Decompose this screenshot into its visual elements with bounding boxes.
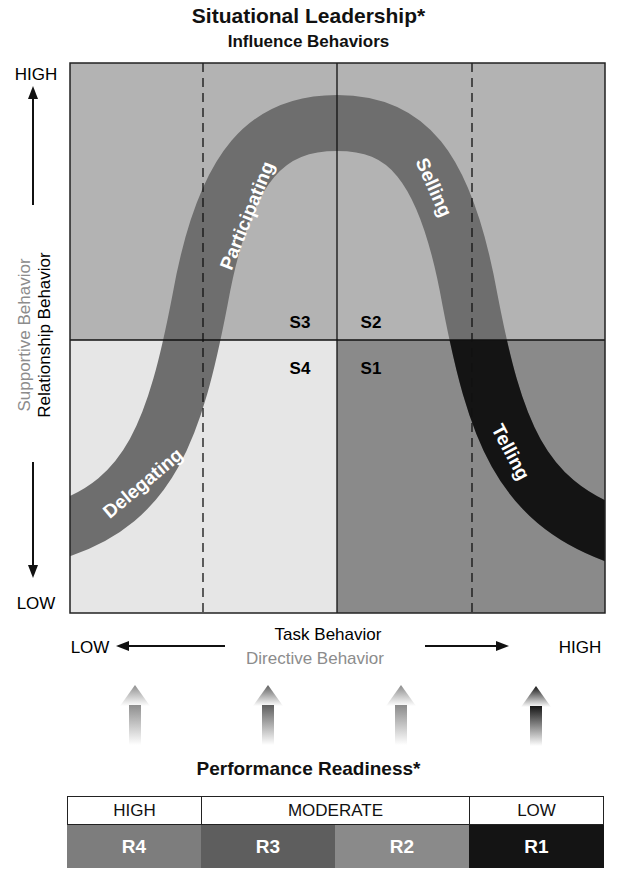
x-axis-label-primary: Task Behavior	[275, 625, 382, 644]
cell-r2: R2	[335, 825, 469, 868]
y-axis-high: HIGH	[15, 65, 58, 84]
quadrant-s2: S2	[361, 313, 382, 332]
y-arrow-down-icon	[28, 565, 38, 578]
cell-r3: R3	[201, 825, 335, 868]
y-arrow-up-icon	[28, 86, 38, 99]
quadrant-s4: S4	[290, 359, 311, 378]
quadrant-s1: S1	[361, 359, 382, 378]
x-axis-label-secondary: Directive Behavior	[246, 649, 384, 668]
readiness-cells-row: R4 R3 R2 R1	[67, 825, 604, 868]
readiness-arrow-r2-icon	[386, 685, 416, 745]
leadership-diagram: S3 S2 S4 S1 Delegating Participating Sel…	[0, 0, 617, 760]
x-arrow-left-icon	[116, 641, 129, 651]
readiness-levels-row: HIGH MODERATE LOW	[67, 796, 604, 825]
readiness-arrow-r4-icon	[120, 685, 150, 745]
level-high: HIGH	[68, 797, 202, 824]
y-axis-label-secondary: Supportive Behavior	[15, 258, 34, 411]
readiness-table: HIGH MODERATE LOW R4 R3 R2 R1	[67, 796, 604, 870]
readiness-arrow-r3-icon	[253, 685, 283, 745]
readiness-title: Performance Readiness*	[0, 758, 617, 780]
cell-r1: R1	[469, 825, 604, 868]
x-arrow-right-icon	[496, 641, 509, 651]
y-axis-low: LOW	[17, 594, 56, 613]
cell-r4: R4	[67, 825, 201, 868]
y-axis-label-primary: Relationship Behavior	[35, 252, 54, 418]
x-axis-low: LOW	[71, 638, 110, 657]
level-moderate: MODERATE	[202, 797, 470, 824]
quadrant-s3: S3	[290, 313, 311, 332]
level-low: LOW	[470, 797, 603, 824]
readiness-arrow-r1-icon	[521, 686, 551, 746]
x-axis-high: HIGH	[559, 638, 602, 657]
